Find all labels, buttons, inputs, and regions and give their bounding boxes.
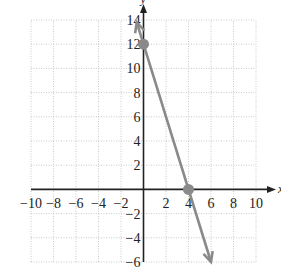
x-tick-label: −8 — [46, 196, 61, 211]
y-tick-label: 2 — [134, 158, 141, 173]
x-tick-label: 2 — [163, 196, 170, 211]
tick-labels: −10−8−6−4−2246810−6−4−22468101214 — [20, 13, 263, 270]
x-tick-label: 6 — [208, 196, 215, 211]
y-axis-label: y — [140, 0, 147, 6]
y-tick-label: −6 — [126, 255, 141, 270]
x-tick-label: −6 — [69, 196, 84, 211]
x-tick-label: 8 — [230, 196, 237, 211]
y-tick-label: 10 — [127, 61, 141, 76]
series-line — [137, 22, 211, 262]
axes: xy — [31, 0, 281, 262]
y-tick-label: 8 — [134, 86, 141, 101]
y-tick-label: −2 — [126, 207, 141, 222]
x-tick-label: −10 — [20, 196, 42, 211]
x-axis-label: x — [277, 182, 281, 196]
y-tick-label: −4 — [126, 231, 141, 246]
data-point — [183, 184, 194, 195]
y-tick-label: 4 — [134, 134, 141, 149]
data-point — [138, 39, 149, 50]
x-tick-label: 10 — [249, 196, 263, 211]
y-tick-label: 6 — [134, 110, 141, 125]
chart: xy −10−8−6−4−2246810−6−4−22468101214 — [0, 0, 281, 276]
series — [135, 22, 213, 262]
x-tick-label: −4 — [91, 196, 106, 211]
x-axis-arrow-icon — [267, 186, 276, 193]
